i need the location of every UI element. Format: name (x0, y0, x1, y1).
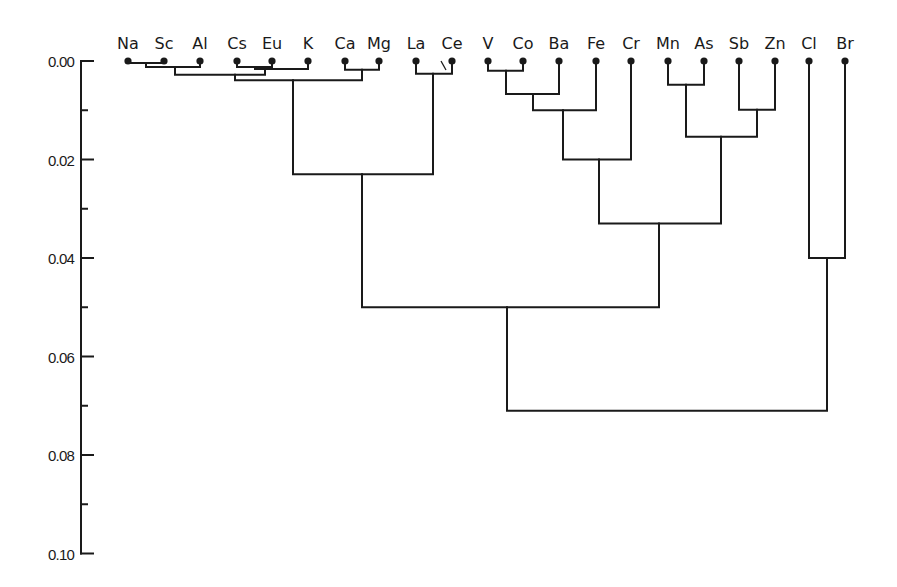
y-tick-label: 0.00 (48, 53, 74, 70)
leaf-label-sc: Sc (155, 34, 174, 53)
leaf-label-mg: Mg (367, 34, 391, 53)
dendrogram-link-m20 (507, 258, 827, 411)
leaf-labels: NaScAlCsEuKCaMgLaCeVCoBaFeCrMnAsSbZnClBr (117, 34, 854, 65)
dendrogram-link-m9 (293, 74, 433, 174)
leaf-label-cs: Cs (227, 34, 247, 53)
leaf-node-dot (592, 57, 599, 64)
leaf-node-dot (627, 57, 634, 64)
leaf-node-dot (805, 57, 812, 64)
dendrogram-link-m5 (175, 67, 265, 75)
leaf-node-dot (700, 57, 707, 64)
leaf-label-al: Al (192, 34, 207, 53)
dendrogram-link-m18 (362, 174, 659, 307)
dendrogram-link-m10 (488, 61, 523, 71)
dendrogram-link-m11 (506, 61, 559, 94)
leaf-node-dot (268, 57, 275, 64)
leaf-node-dot (771, 57, 778, 64)
dendrogram-chart: 0.000.020.040.060.080.10 NaScAlCsEuKCaMg… (0, 0, 897, 587)
leaf-label-co: Co (513, 34, 534, 53)
y-tick-label: 0.02 (48, 152, 74, 169)
leaf-node-dot (124, 57, 131, 64)
leaf-label-na: Na (117, 34, 139, 53)
leaf-label-sb: Sb (729, 34, 749, 53)
leaf-label-cr: Cr (622, 34, 640, 53)
dendrogram-link-m12 (533, 61, 596, 110)
leaf-node-dot (412, 57, 419, 64)
y-tick-label: 0.10 (48, 546, 74, 563)
y-axis: 0.000.020.040.060.080.10 (48, 53, 93, 563)
leaf-node-dot (448, 57, 455, 64)
leaf-node-dot (841, 57, 848, 64)
leaf-label-ba: Ba (549, 34, 570, 53)
dendrogram-link-m15 (739, 61, 775, 110)
leaf-node-dot (304, 57, 311, 64)
leaf-node-dot (735, 57, 742, 64)
leaf-node-dot (664, 57, 671, 64)
leaf-label-eu: Eu (262, 34, 282, 53)
leaf-label-ce: Ce (441, 34, 462, 53)
dendrogram-tree (128, 61, 845, 411)
y-tick-label: 0.04 (48, 250, 74, 267)
leaf-label-mn: Mn (656, 34, 680, 53)
leaf-node-dot (519, 57, 526, 64)
leaf-label-k: K (303, 34, 314, 53)
leaf-label-ca: Ca (335, 34, 356, 53)
dendrogram-link-m17 (599, 137, 721, 224)
y-tick-label: 0.08 (48, 447, 74, 464)
leaf-node-dot (484, 57, 491, 64)
annotation-stroke (441, 61, 446, 70)
leaf-label-zn: Zn (764, 34, 785, 53)
y-tick-label: 0.06 (48, 349, 74, 366)
leaf-node-dot (160, 57, 167, 64)
leaf-node-dot (233, 57, 240, 64)
leaf-node-dot (196, 57, 203, 64)
leaf-label-la: La (407, 34, 426, 53)
leaf-node-dot (375, 57, 382, 64)
leaf-label-fe: Fe (587, 34, 605, 53)
leaf-label-as: As (694, 34, 713, 53)
dendrogram-link-m6 (345, 61, 379, 70)
leaf-label-br: Br (836, 34, 854, 53)
leaf-label-v: V (483, 34, 494, 53)
leaf-node-dot (341, 57, 348, 64)
leaf-node-dot (555, 57, 562, 64)
dendrogram-link-m19 (809, 61, 845, 258)
dendrogram-link-m8 (416, 61, 452, 74)
dendrogram-link-m14 (668, 61, 704, 85)
leaf-label-cl: Cl (801, 34, 817, 53)
